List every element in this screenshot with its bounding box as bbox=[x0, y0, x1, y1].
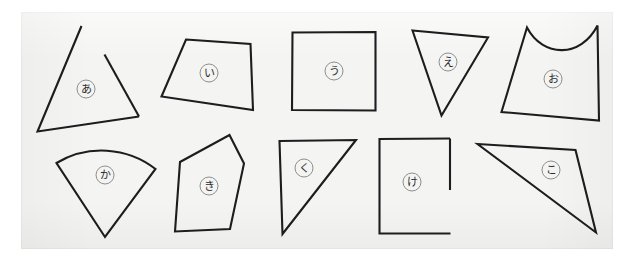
label-ki-text: き bbox=[204, 180, 215, 193]
shape-o: お bbox=[502, 26, 600, 121]
shape-ko: こ bbox=[478, 144, 597, 233]
label-ke: け bbox=[403, 173, 421, 191]
label-ka: か bbox=[96, 166, 114, 184]
label-ke-text: け bbox=[407, 176, 418, 189]
shape-a-outline-open-edge bbox=[105, 55, 140, 117]
label-u: う bbox=[325, 62, 343, 80]
label-ko: こ bbox=[542, 161, 560, 179]
label-i-text: い bbox=[204, 67, 215, 80]
shape-ko-outline bbox=[478, 144, 597, 233]
label-u-text: う bbox=[329, 65, 340, 78]
shapes-figure-group: あ い う え bbox=[0, 0, 633, 264]
label-ki: き bbox=[200, 177, 218, 195]
shape-a: あ bbox=[38, 26, 140, 132]
shape-e-outline bbox=[413, 31, 489, 116]
shape-ka: か bbox=[57, 151, 156, 237]
shape-e: え bbox=[413, 31, 489, 116]
label-ko-text: こ bbox=[546, 164, 557, 177]
label-i: い bbox=[200, 64, 218, 82]
label-ku-text: く bbox=[299, 162, 310, 175]
shape-ke: け bbox=[380, 139, 451, 234]
shape-ki: き bbox=[175, 135, 244, 232]
shape-ka-outline bbox=[57, 151, 156, 237]
label-o: お bbox=[544, 70, 562, 88]
label-ku: く bbox=[295, 159, 313, 177]
shape-u: う bbox=[292, 32, 376, 111]
shape-a-outline-main bbox=[38, 26, 140, 132]
label-a: あ bbox=[77, 80, 95, 98]
label-e: え bbox=[439, 53, 457, 71]
worksheet-canvas: あ い う え bbox=[0, 0, 633, 264]
label-ka-text: か bbox=[100, 169, 111, 182]
shape-i: い bbox=[162, 40, 254, 111]
label-e-text: え bbox=[443, 56, 454, 69]
shape-ku: く bbox=[280, 140, 357, 234]
label-a-text: あ bbox=[81, 83, 92, 96]
shape-ku-outline bbox=[280, 140, 357, 234]
label-o-text: お bbox=[548, 73, 559, 86]
